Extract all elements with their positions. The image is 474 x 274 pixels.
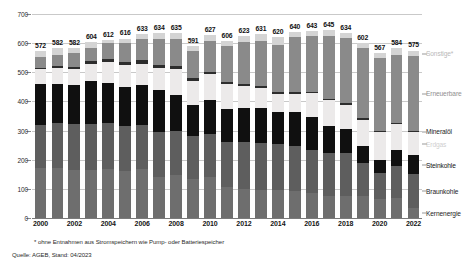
bar-column[interactable]: 623: [238, 14, 250, 218]
bar-column[interactable]: 582: [68, 14, 80, 218]
bar-column[interactable]: 645: [323, 14, 335, 218]
bar-segment-kernenergie: [68, 170, 80, 218]
bar-total-label: 575: [408, 41, 419, 48]
bar-total-label: 635: [171, 24, 182, 31]
bar-column[interactable]: 631: [255, 14, 267, 218]
bar-column[interactable]: 616: [119, 14, 131, 218]
x-tick-label-2010: 2010: [202, 220, 217, 227]
bar-segment-erneuerbare: [340, 38, 352, 104]
bar-segment-sonstige: [272, 37, 284, 45]
bar-column[interactable]: 634: [340, 14, 352, 218]
bar-total-label: 567: [374, 44, 385, 51]
bar-column[interactable]: 612: [102, 14, 114, 218]
bar-segment-braunkohle: [136, 125, 148, 169]
x-tick-label-2006: 2006: [135, 220, 150, 227]
bar-segment-braunkohle: [340, 153, 352, 196]
bar-total-label: 582: [69, 39, 80, 46]
legend-item-braunkohle[interactable]: Braunkohle: [426, 187, 458, 194]
bar-segment-steinkohle: [408, 155, 420, 174]
bar-stack: [187, 46, 199, 218]
bar-column[interactable]: 591: [187, 14, 199, 218]
bar-segment-braunkohle: [306, 150, 318, 194]
bar-segment-erdgas: [357, 120, 369, 147]
bar-segment-kernenergie: [306, 193, 318, 218]
bar-segment-kernenergie: [35, 168, 47, 218]
legend-item-minerall[interactable]: Mineralöl: [426, 128, 452, 135]
bar-segment-steinkohle: [323, 126, 335, 153]
bar-column[interactable]: 604: [85, 14, 97, 218]
bar-segment-braunkohle: [238, 142, 250, 189]
bar-segment-steinkohle: [52, 84, 64, 123]
bar-stack: [323, 30, 335, 218]
bar-total-label: 606: [222, 32, 233, 39]
y-tick-label-300: 300: [2, 127, 28, 134]
bar-segment-braunkohle: [68, 124, 80, 170]
bar-segment-steinkohle: [85, 81, 97, 124]
bar-segment-erdgas: [272, 94, 284, 112]
legend-item-sonstige[interactable]: Sonstige*: [426, 50, 453, 57]
bar-column[interactable]: 643: [306, 14, 318, 218]
legend-item-erdgas[interactable]: Erdgas: [426, 140, 446, 147]
bar-segment-erneuerbare: [85, 48, 97, 61]
legend-item-steinkohle[interactable]: Steinkohle: [426, 161, 456, 168]
bar-column[interactable]: 620: [272, 14, 284, 218]
bar-segment-erneuerbare: [170, 39, 182, 66]
bar-segment-erneuerbare: [408, 56, 420, 131]
bar-segment-steinkohle: [357, 146, 369, 163]
bar-segment-kernenergie: [289, 191, 301, 218]
bar-stack: [102, 40, 114, 218]
bar-total-label: 633: [137, 25, 148, 32]
bar-segment-erdgas: [170, 69, 182, 95]
bar-segment-steinkohle: [255, 108, 267, 143]
bar-segment-steinkohle: [153, 90, 165, 131]
bar-segment-braunkohle: [119, 126, 131, 171]
bar-total-label: 645: [323, 21, 334, 28]
bar-segment-steinkohle: [306, 117, 318, 150]
bar-column[interactable]: 572: [35, 14, 47, 218]
bar-total-label: 634: [340, 24, 351, 31]
y-tick-label-700: 700: [2, 11, 28, 18]
bar-segment-braunkohle: [289, 146, 301, 191]
bar-segment-steinkohle: [204, 100, 216, 134]
bar-total-label: 584: [391, 39, 402, 46]
bar-column[interactable]: 602: [357, 14, 369, 218]
bar-column[interactable]: 575: [408, 14, 420, 218]
bar-stack: [68, 48, 80, 218]
legend-leader-line: [422, 53, 427, 54]
source-note: Quelle: AGEB, Stand: 04/2023: [12, 252, 92, 258]
bar-segment-erdgas: [391, 124, 403, 150]
bar-segment-kernenergie: [204, 177, 216, 218]
bar-stack: [408, 51, 420, 219]
bar-column[interactable]: 634: [153, 14, 165, 218]
y-tick-label-100: 100: [2, 185, 28, 192]
bar-segment-erdgas: [340, 105, 352, 129]
bar-stack: [374, 53, 386, 218]
bar-series-group: 5725825826046126166336346355916276066236…: [32, 14, 422, 218]
bar-stack: [357, 43, 369, 218]
x-tick-label-2014: 2014: [270, 220, 285, 227]
bar-segment-erdgas: [306, 93, 318, 117]
bar-segment-kernenergie: [187, 179, 199, 218]
legend-item-kernenergie[interactable]: Kernenergie: [426, 209, 461, 216]
bar-column[interactable]: 567: [374, 14, 386, 218]
bar-column[interactable]: 635: [170, 14, 182, 218]
bar-segment-braunkohle: [323, 153, 335, 196]
bar-segment-erdgas: [255, 88, 267, 108]
legend-item-erneuerbare[interactable]: Erneuerbare: [426, 90, 462, 97]
bar-column[interactable]: 582: [52, 14, 64, 218]
bar-column[interactable]: 627: [204, 14, 216, 218]
plot-area: 5725825826046126166336346355916276066236…: [32, 14, 422, 218]
bar-column[interactable]: 633: [136, 14, 148, 218]
bar-segment-braunkohle: [52, 123, 64, 168]
bar-segment-braunkohle: [153, 132, 165, 177]
bar-column[interactable]: 606: [221, 14, 233, 218]
y-tick-label-600: 600: [2, 40, 28, 47]
bar-column[interactable]: 640: [289, 14, 301, 218]
bar-segment-erneuerbare: [272, 45, 284, 92]
bar-column[interactable]: 584: [391, 14, 403, 218]
bar-total-label: 602: [357, 34, 368, 41]
bar-segment-steinkohle: [391, 150, 403, 166]
bar-stack: [35, 51, 47, 218]
bar-segment-erdgas: [102, 62, 114, 83]
bar-segment-erdgas: [374, 132, 386, 160]
